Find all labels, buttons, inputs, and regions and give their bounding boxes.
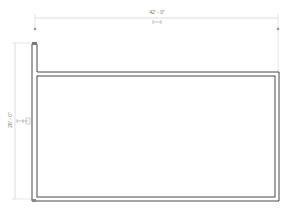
eq-toggle-icon[interactable] <box>17 118 30 124</box>
wall-outline[interactable] <box>32 44 279 201</box>
wall-corner-grip[interactable] <box>32 199 36 202</box>
eq-toggle-icon[interactable] <box>153 20 161 24</box>
wall-end-grip[interactable] <box>32 42 37 45</box>
horizontal-dimension[interactable]: 42' - 0" <box>34 9 280 72</box>
grip-handle-icon[interactable] <box>34 28 37 31</box>
vertical-dimension-label: 26' - 0" <box>7 112 13 128</box>
vertical-dimension[interactable]: 26' - 0" <box>7 43 33 199</box>
horizontal-dimension-label: 42' - 0" <box>149 9 165 15</box>
floor-plan-canvas[interactable]: 42' - 0" 26' - 0" <box>0 0 287 210</box>
grip-handle-icon[interactable] <box>277 28 280 31</box>
